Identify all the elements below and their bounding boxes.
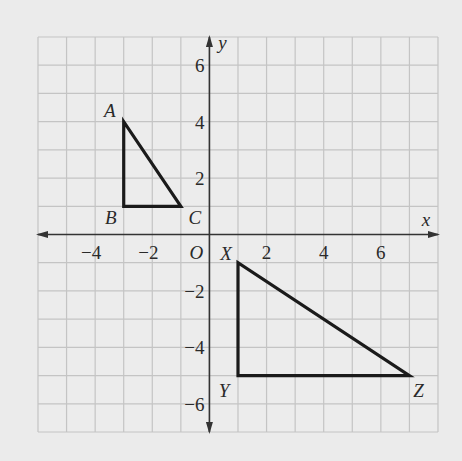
- y-tick-label: −6: [184, 394, 204, 415]
- y-tick-label: 2: [195, 168, 205, 189]
- y-axis-label: y: [216, 32, 227, 53]
- x-axis-label: x: [421, 209, 431, 230]
- y-tick-label: −2: [184, 281, 204, 302]
- coordinate-plane: −4−2246642−2−4−6OxyABCXYZ: [0, 0, 462, 461]
- origin-label: O: [190, 242, 204, 263]
- x-tick-label: −4: [81, 242, 102, 263]
- vertex-label-z: Z: [413, 380, 424, 401]
- x-tick-label: 6: [376, 242, 386, 263]
- y-tick-label: 6: [195, 55, 205, 76]
- vertex-label-x: X: [219, 243, 233, 264]
- y-tick-label: 4: [195, 112, 205, 133]
- vertex-label-c: C: [189, 207, 202, 228]
- vertex-label-b: B: [105, 207, 117, 228]
- x-tick-label: −2: [138, 242, 158, 263]
- y-tick-label: −4: [184, 337, 205, 358]
- x-tick-label: 2: [262, 242, 272, 263]
- vertex-label-a: A: [102, 100, 116, 121]
- x-tick-label: 4: [319, 242, 329, 263]
